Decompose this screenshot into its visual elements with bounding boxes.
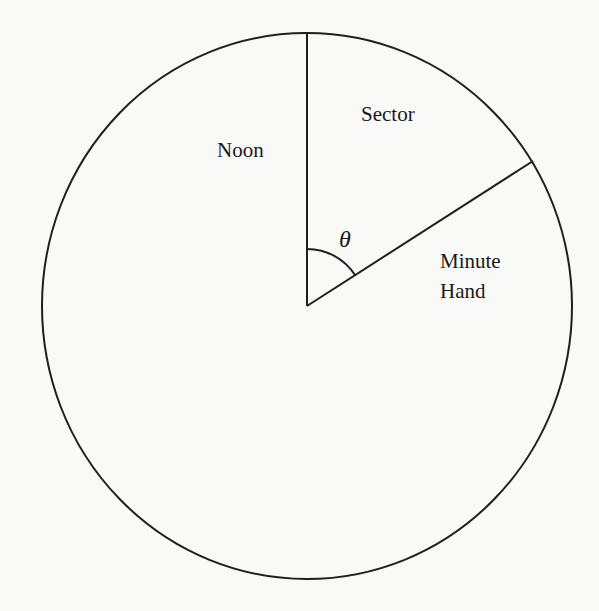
minute-hand-label-line1: Minute [440,249,501,273]
minute-hand-label-line2: Hand [440,279,486,303]
angle-arc [307,249,355,275]
theta-angle-label: θ [339,226,351,252]
sector-label: Sector [361,102,415,126]
noon-label: Noon [217,138,264,162]
clock-sector-diagram: Noon Sector Minute Hand θ [0,0,599,611]
